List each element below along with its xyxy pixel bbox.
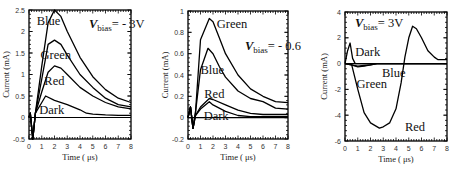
- x-tick-label: 7: [274, 143, 278, 150]
- y-tick-label: 0.5: [15, 93, 25, 100]
- x-axis-title: Time ( μs): [378, 154, 414, 164]
- x-tick-label: 3: [381, 145, 385, 152]
- y-tick-label: 2.5: [15, 7, 25, 14]
- series-label-blue: Blue: [37, 14, 61, 28]
- series-label-dark: Dark: [39, 103, 65, 117]
- series-label-red: Red: [204, 87, 225, 101]
- series-label-blue: Blue: [201, 63, 225, 77]
- y-tick-label: 0.8: [174, 29, 184, 36]
- y-axis-title: Current (mA): [1, 51, 11, 98]
- y-tick-label: 0: [337, 60, 341, 67]
- x-tick-label: 4: [78, 143, 82, 150]
- y-tick-label: 0.4: [174, 72, 184, 79]
- y-tick-label: -2: [335, 86, 341, 93]
- y-tick-label: -6: [335, 138, 341, 145]
- x-tick-label: 0: [27, 143, 31, 150]
- vbias-annotation: Vbias= - 0.6: [245, 39, 301, 55]
- x-tick-label: 0: [186, 143, 190, 150]
- x-tick-label: 5: [91, 143, 95, 150]
- panel-vbias-3v: 012345678-6-4-2024Time ( μs)Current (mA)…: [319, 9, 449, 165]
- y-tick-label: 0.2: [174, 93, 184, 100]
- x-tick-label: 2: [53, 143, 57, 150]
- x-tick-label: 1: [356, 145, 360, 152]
- y-tick-label: 1: [180, 8, 184, 15]
- vbias-annotation: Vbias= 3V: [355, 16, 403, 32]
- x-tick-label: 5: [407, 145, 411, 152]
- x-tick-label: 8: [129, 143, 133, 150]
- x-tick-label: 2: [211, 143, 215, 150]
- series-label-green: Green: [40, 48, 71, 62]
- y-axis-title: Current (mA): [319, 53, 329, 100]
- series-label-red: Red: [44, 74, 65, 88]
- x-tick-label: 4: [236, 143, 240, 150]
- figure: 012345678-0.500.511.522.5Time ( μs)Curre…: [0, 0, 455, 174]
- x-tick-label: 6: [420, 145, 424, 152]
- x-tick-label: 1: [40, 143, 44, 150]
- y-tick-label: 1.5: [15, 50, 25, 57]
- x-tick-label: 0: [343, 145, 347, 152]
- y-tick-label: 4: [337, 9, 341, 16]
- x-tick-label: 6: [261, 143, 265, 150]
- y-tick-label: 1: [21, 71, 25, 78]
- y-tick-label: 0.6: [174, 50, 184, 57]
- x-tick-label: 2: [369, 145, 373, 152]
- series-label-dark: Dark: [355, 45, 381, 59]
- x-tick-label: 8: [286, 143, 290, 150]
- panel-vbias-neg0-6: 012345678-0.200.20.40.60.81Time ( μs)Cur…: [160, 8, 301, 163]
- x-tick-label: 4: [394, 145, 398, 152]
- y-tick-label: -4: [335, 112, 341, 119]
- x-axis-title: Time ( μs): [62, 152, 98, 162]
- y-tick-label: 2: [337, 34, 341, 41]
- series-label-green: Green: [356, 77, 387, 91]
- x-tick-label: 1: [199, 143, 203, 150]
- x-axis-title: Time ( μs): [220, 152, 256, 162]
- x-tick-label: 8: [445, 145, 449, 152]
- x-tick-label: 3: [65, 143, 69, 150]
- series-label-dark: Dark: [204, 109, 230, 123]
- y-tick-label: -0.2: [172, 136, 184, 143]
- series-label-red: Red: [405, 120, 426, 134]
- series-label-green: Green: [217, 17, 248, 31]
- x-tick-label: 7: [116, 143, 120, 150]
- vbias-annotation: Vbias= - 3V: [89, 17, 145, 33]
- y-tick-label: 2: [21, 28, 25, 35]
- y-tick-label: 0: [21, 114, 25, 121]
- y-tick-label: -0.5: [13, 136, 25, 143]
- y-tick-label: 0: [180, 114, 184, 121]
- x-tick-label: 7: [432, 145, 436, 152]
- x-tick-label: 3: [224, 143, 228, 150]
- panel-vbias-neg3v: 012345678-0.500.511.522.5Time ( μs)Curre…: [1, 7, 145, 163]
- y-axis-title: Current (mA): [160, 52, 170, 99]
- x-tick-label: 6: [104, 143, 108, 150]
- x-tick-label: 5: [249, 143, 253, 150]
